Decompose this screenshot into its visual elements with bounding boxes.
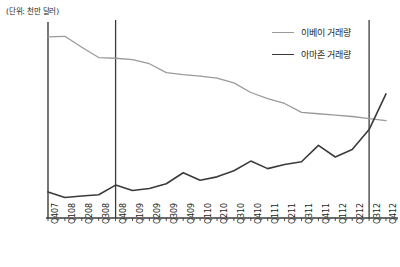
legend-label-ebay: 이베이 거래량 xyxy=(301,26,350,39)
series-line-amazon xyxy=(48,94,386,198)
legend-item-amazon: 아마존 거래량 xyxy=(272,48,350,61)
chart-legend: 이베이 거래량 아마존 거래량 xyxy=(272,26,350,61)
line-chart: (단위: 천만 달러) 2,0004,0006,0008,00010,00012… xyxy=(0,0,400,267)
legend-swatch-amazon xyxy=(272,54,294,55)
legend-swatch-ebay xyxy=(272,32,294,33)
legend-label-amazon: 아마존 거래량 xyxy=(301,48,350,61)
legend-item-ebay: 이베이 거래량 xyxy=(272,26,350,39)
